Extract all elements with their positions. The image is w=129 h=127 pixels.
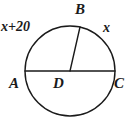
arc-measure-label-left: x+20	[1, 20, 30, 34]
vertex-label-c: C	[114, 76, 124, 91]
geometry-figure: x+20 x B A D C	[0, 0, 129, 127]
vertex-label-b: B	[75, 2, 85, 17]
vertex-label-d: D	[53, 76, 64, 91]
radius-segment-db	[70, 27, 80, 71]
arc-measure-label-right: x	[103, 21, 110, 35]
vertex-label-a: A	[9, 76, 19, 91]
